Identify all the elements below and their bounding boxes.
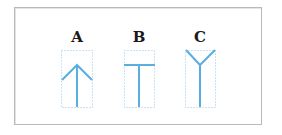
- shapes-diagram: [0, 0, 282, 135]
- panel-a-arrow-icon: [62, 51, 93, 108]
- panel-c-y-icon: [186, 50, 216, 108]
- panel-b-t-icon: [124, 51, 155, 108]
